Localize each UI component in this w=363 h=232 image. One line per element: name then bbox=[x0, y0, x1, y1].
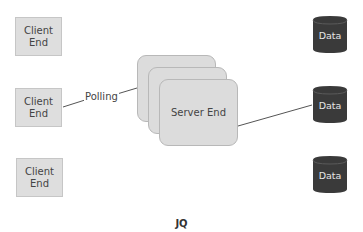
polling-edge-label: Polling bbox=[84, 91, 119, 102]
client-end-node-3: Client End bbox=[16, 158, 63, 197]
client-to-label-line bbox=[63, 100, 85, 107]
data-store-label: Data bbox=[312, 100, 348, 111]
client-end-node-2: Client End bbox=[15, 88, 62, 127]
diagram-caption: JQ bbox=[0, 218, 363, 229]
label-to-server-line bbox=[117, 88, 137, 94]
client-label-line1: Client bbox=[24, 25, 53, 37]
data-store-1: Data bbox=[312, 15, 348, 54]
server-label: Server End bbox=[171, 107, 226, 118]
client-label-line2: End bbox=[24, 108, 53, 120]
data-store-label: Data bbox=[312, 170, 348, 181]
server-end-node: Server End bbox=[159, 79, 238, 146]
data-store-3: Data bbox=[312, 155, 348, 194]
client-label-line1: Client bbox=[24, 96, 53, 108]
client-end-node-1: Client End bbox=[15, 17, 62, 56]
server-to-data-line bbox=[238, 105, 312, 126]
data-store-label: Data bbox=[312, 30, 348, 41]
client-label-line2: End bbox=[25, 178, 54, 190]
client-label-line1: Client bbox=[25, 166, 54, 178]
data-store-2: Data bbox=[312, 85, 348, 124]
client-label-line2: End bbox=[24, 37, 53, 49]
